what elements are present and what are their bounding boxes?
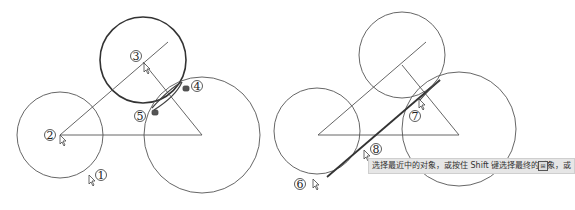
marker-4: 4 <box>192 80 203 93</box>
marker-7: 7 <box>410 110 421 123</box>
left-panel-cursors <box>60 63 189 186</box>
svg-text:1: 1 <box>98 169 105 182</box>
circle-top[interactable] <box>359 12 445 98</box>
cursor-arrow-icon <box>144 63 150 74</box>
marker-5: 5 <box>135 110 146 123</box>
svg-text:7: 7 <box>412 110 419 123</box>
diagonal-line <box>60 42 168 135</box>
expand-icon[interactable]: ⊞ <box>538 161 548 171</box>
marker-3: 3 <box>131 50 142 63</box>
svg-text:8: 8 <box>373 143 380 156</box>
svg-text:5: 5 <box>137 110 144 123</box>
cursor-arrow-icon <box>419 99 425 110</box>
tangent-snap-marker-icon <box>152 110 158 115</box>
left-panel-markers: 1 2 3 4 5 <box>45 50 203 182</box>
marker-1: 1 <box>96 169 107 182</box>
tangent-arc-highlight <box>420 80 440 100</box>
triangle-right-side <box>402 65 459 135</box>
marker-6: 6 <box>295 178 306 191</box>
marker-8: 8 <box>371 143 382 156</box>
marker-2: 2 <box>45 129 56 142</box>
svg-text:2: 2 <box>47 129 54 142</box>
left-panel <box>17 17 260 193</box>
svg-text:4: 4 <box>194 80 201 93</box>
cursor-arrow-icon <box>60 135 66 146</box>
right-panel-cursors <box>313 99 425 190</box>
tangent-snap-marker-icon <box>183 86 189 91</box>
cursor-arrow-icon <box>89 175 95 186</box>
cursor-arrow-icon <box>313 179 319 190</box>
svg-text:6: 6 <box>297 178 304 191</box>
circle-top-selected[interactable] <box>100 17 186 103</box>
svg-text:3: 3 <box>133 50 140 63</box>
diagonal-line <box>318 42 426 135</box>
circle-small-left[interactable] <box>274 88 360 174</box>
triangle-right-side <box>143 62 202 135</box>
